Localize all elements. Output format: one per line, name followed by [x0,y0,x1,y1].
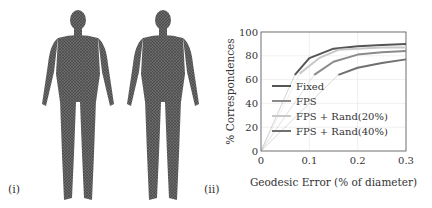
legend-label: FPS + Rand(20%) [296,111,388,122]
chart-panel: 00.10.20.3020406080100Geodesic Error (% … [216,0,432,208]
series-line [338,59,406,74]
y-tick-label: 80 [245,50,258,61]
x-axis-label: Geodesic Error (% of diameter) [250,176,417,188]
x-tick-label: 0.3 [398,155,414,166]
y-tick-label: 60 [245,74,258,85]
legend-label: FPS + Rand(40%) [296,126,388,137]
x-tick-label: 0 [258,155,264,166]
human-mesh-i [42,10,114,200]
legend-label: Fixed [296,81,325,92]
human-mesh-pair [0,0,216,208]
line-chart: 00.10.20.3020406080100Geodesic Error (% … [216,0,432,208]
x-tick-label: 0.1 [301,155,317,166]
x-tick-label: 0.2 [350,155,366,166]
panel-label-i: (i) [8,183,20,196]
y-tick-label: 100 [239,27,258,38]
y-axis-label: % Correspondences [224,38,236,144]
y-tick-label: 40 [245,98,258,109]
y-tick-label: 0 [252,146,258,157]
legend-label: FPS [296,96,317,107]
mesh-figures: (i) [0,0,216,208]
human-mesh-ii [127,10,199,200]
y-tick-label: 20 [245,122,258,133]
